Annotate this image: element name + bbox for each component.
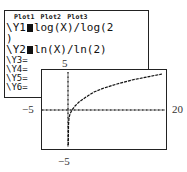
- xmax-label: 20: [172, 103, 183, 115]
- graph-screen: [41, 69, 167, 150]
- y1-expression[interactable]: log(X)/log(2: [34, 21, 113, 34]
- ymin-label: −5: [58, 155, 70, 167]
- selected-marker-icon[interactable]: [27, 46, 33, 54]
- y6-eq: =: [22, 82, 27, 92]
- plot2-label[interactable]: Plot2: [41, 13, 62, 21]
- y2-expression[interactable]: ln(X)/ln(2): [34, 43, 107, 56]
- plot3-label[interactable]: Plot3: [67, 13, 88, 21]
- ymax-label: 5: [62, 57, 68, 69]
- selected-marker-icon[interactable]: [27, 24, 33, 32]
- graph-plot: [42, 70, 165, 148]
- y1-row[interactable]: \Y1log(X)/log(2: [6, 22, 113, 33]
- xmin-label: −5: [22, 103, 34, 115]
- plot1-label[interactable]: Plot1: [14, 13, 35, 21]
- y6-row[interactable]: \Y6=: [6, 82, 28, 93]
- y1-name: Y1: [13, 21, 26, 34]
- y2-row[interactable]: \Y2ln(X)/ln(2): [6, 44, 107, 55]
- y6-name: Y6: [11, 82, 22, 92]
- plot-menu: Plot1Plot2Plot3: [14, 13, 94, 21]
